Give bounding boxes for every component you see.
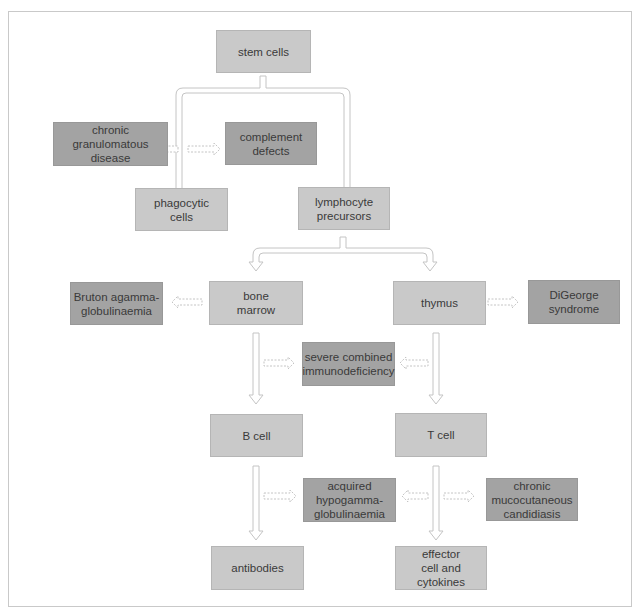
node-b-cell: B cell — [210, 414, 303, 457]
arrow-t-cell-to-effector — [429, 466, 443, 540]
dashed-arrow-scid-left — [264, 357, 294, 369]
node-chronic-granulomatous-disease: chronic granulomatous disease — [53, 122, 168, 166]
arrow-thymus-to-t-cell — [429, 333, 443, 404]
dashed-arrow-digeorge — [488, 296, 518, 308]
node-severe-combined-immunodeficiency: severe combined immunodeficiency — [302, 342, 395, 386]
arrow-b-cell-to-antibodies — [249, 466, 263, 540]
dashed-arrow-acquired-right — [402, 490, 428, 502]
node-complement-defects: complement defects — [225, 122, 317, 165]
node-bone-marrow: bone marrow — [209, 281, 303, 325]
node-acquired-hypogammaglobulinaemia: acquired hypogamma- globulinaemia — [303, 478, 396, 522]
dashed-arrow-complement — [188, 143, 220, 155]
node-antibodies: antibodies — [211, 546, 304, 590]
node-chronic-mucocutaneous-candidiasis: chronic mucocutaneous candidiasis — [486, 478, 578, 521]
node-phagocytic-cells: phagocytic cells — [135, 188, 228, 231]
dashed-arrow-scid-right — [400, 357, 428, 369]
node-t-cell: T cell — [395, 413, 487, 457]
dashed-arrow-acquired-left — [264, 490, 296, 502]
node-stem-cells: stem cells — [216, 30, 311, 73]
node-effector-cell-and-cytokines: effector cell and cytokines — [395, 546, 487, 590]
node-lymphocyte-precursors: lymphocyte precursors — [298, 187, 390, 230]
node-bruton-agammaglobulinaemia: Bruton agamma- globulinaemia — [70, 282, 163, 325]
node-thymus: thymus — [393, 281, 486, 325]
split-arrow-lymphocyte — [249, 237, 437, 271]
dashed-arrow-bruton — [172, 296, 202, 308]
dashed-arrow-cmc — [444, 490, 474, 502]
arrow-bone-marrow-to-b-cell — [249, 333, 263, 404]
node-digeorge-syndrome: DiGeorge syndrome — [528, 280, 620, 324]
